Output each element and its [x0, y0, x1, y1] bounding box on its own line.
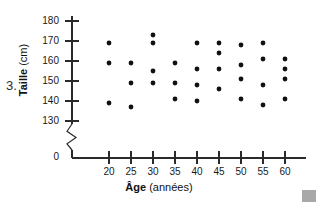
- data-point: [107, 41, 112, 46]
- y-origin-label: 0: [29, 151, 59, 162]
- data-point: [217, 87, 222, 92]
- x-tick-label-35: 35: [163, 166, 187, 177]
- data-point: [107, 61, 112, 66]
- data-point: [129, 81, 134, 86]
- x-tick-label-40: 40: [185, 166, 209, 177]
- data-point: [239, 63, 244, 68]
- data-point: [151, 41, 156, 46]
- data-point: [261, 83, 266, 88]
- y-axis-break-symbol: [67, 124, 76, 150]
- x-tick-label-30: 30: [141, 166, 165, 177]
- x-axis-label: Âge (années): [0, 181, 318, 193]
- data-point: [217, 51, 222, 56]
- data-point: [151, 69, 156, 74]
- data-point: [173, 97, 178, 102]
- data-point: [283, 57, 288, 62]
- data-point: [217, 41, 222, 46]
- data-point: [195, 99, 200, 104]
- data-point: [239, 97, 244, 102]
- data-point: [239, 77, 244, 82]
- x-tick-label-55: 55: [251, 166, 275, 177]
- corner-artifact: [302, 190, 316, 202]
- data-point: [283, 97, 288, 102]
- y-tick-label-140: 140: [29, 95, 59, 106]
- data-point: [283, 67, 288, 72]
- data-point: [129, 105, 134, 110]
- y-tick-label-130: 130: [29, 115, 59, 126]
- x-tick-label-45: 45: [207, 166, 231, 177]
- data-point: [129, 61, 134, 66]
- y-tick-label-180: 180: [29, 15, 59, 26]
- x-tick-label-20: 20: [97, 166, 121, 177]
- data-point: [239, 43, 244, 48]
- x-axis-label-text: Âge: [125, 181, 146, 193]
- x-tick-label-25: 25: [119, 166, 143, 177]
- y-axis-label: Taille (cm): [17, 30, 29, 110]
- y-axis-label-unit: (cm): [17, 44, 29, 66]
- data-point: [151, 81, 156, 86]
- data-point: [173, 81, 178, 86]
- data-point: [173, 61, 178, 66]
- data-point: [195, 41, 200, 46]
- data-point: [261, 57, 266, 62]
- question-number: 3.: [6, 78, 17, 93]
- data-point: [217, 67, 222, 72]
- y-axis-label-text: Taille: [17, 69, 29, 96]
- data-point: [261, 103, 266, 108]
- data-point: [195, 67, 200, 72]
- y-tick-label-160: 160: [29, 55, 59, 66]
- y-tick-label-150: 150: [29, 75, 59, 86]
- x-tick-label-60: 60: [273, 166, 297, 177]
- data-point: [283, 77, 288, 82]
- data-point: [261, 41, 266, 46]
- data-point: [151, 33, 156, 38]
- x-axis-label-unit: (années): [149, 181, 192, 193]
- scatter-plot-figure: 3. Taille (cm) Âge (années) 130140150160…: [0, 0, 318, 204]
- data-point: [107, 101, 112, 106]
- data-point: [195, 83, 200, 88]
- y-tick-label-170: 170: [29, 35, 59, 46]
- x-tick-label-50: 50: [229, 166, 253, 177]
